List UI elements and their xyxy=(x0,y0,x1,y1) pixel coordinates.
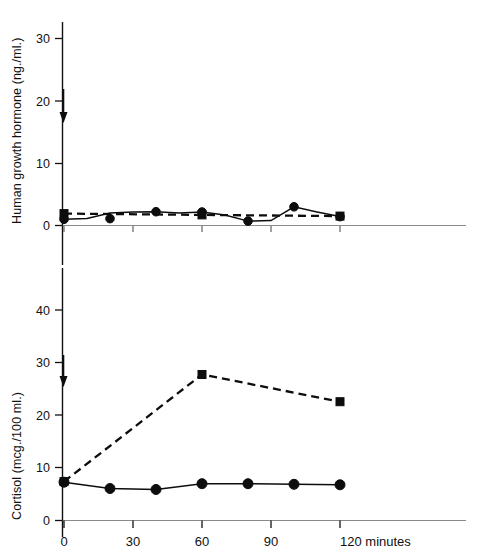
bottom-dashed-square-line xyxy=(64,375,340,482)
xtick-0: 0 xyxy=(60,534,67,549)
top-injection-arrow-icon xyxy=(60,89,68,123)
panel-human-growth-hormone: 30 20 10 0 Human growth hormone (ng./ml.… xyxy=(10,22,466,265)
bottom-y-ticks xyxy=(55,310,63,521)
bottom-ytick-10: 10 xyxy=(36,461,50,475)
bottom-y-axis-title: Cortisol (mcg./100 ml.) xyxy=(10,392,24,520)
top-ytick-0: 0 xyxy=(43,219,50,233)
top-y-ticks xyxy=(55,39,63,226)
panel-cortisol: 40 30 20 10 0 Cortisol (mcg./100 ml.) 0 … xyxy=(10,268,466,549)
top-y-axis-title: Human growth hormone (ng./ml.) xyxy=(10,38,24,224)
xtick-120-minutes: 120 minutes xyxy=(340,534,411,549)
bottom-ytick-40: 40 xyxy=(36,304,50,318)
top-x-ticks xyxy=(64,226,340,232)
xtick-30: 30 xyxy=(126,534,140,549)
top-ytick-20: 20 xyxy=(36,95,50,109)
top-ytick-30: 30 xyxy=(36,32,50,46)
bottom-x-ticks xyxy=(64,521,340,529)
xtick-60: 60 xyxy=(195,534,209,549)
chart-canvas: 30 20 10 0 Human growth hormone (ng./ml.… xyxy=(0,0,478,559)
bottom-injection-arrow-icon xyxy=(60,355,68,387)
bottom-ytick-20: 20 xyxy=(36,409,50,423)
top-circle-markers xyxy=(60,203,345,226)
bottom-ytick-0: 0 xyxy=(43,514,50,528)
bottom-ytick-30: 30 xyxy=(36,356,50,370)
top-ytick-10: 10 xyxy=(36,157,50,171)
bottom-circle-markers xyxy=(59,477,345,494)
bottom-square-markers xyxy=(60,371,344,486)
xtick-90: 90 xyxy=(264,534,278,549)
figure-two-panel-chart: 30 20 10 0 Human growth hormone (ng./ml.… xyxy=(0,0,478,559)
